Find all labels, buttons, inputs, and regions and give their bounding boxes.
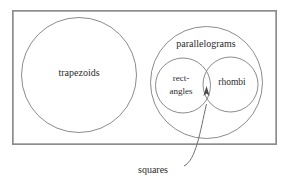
squares-arrowhead-icon — [203, 86, 209, 96]
venn-diagram-svg: trapezoids parallelograms rect- angles r… — [0, 0, 290, 190]
set-label-rhombi: rhombi — [218, 77, 246, 87]
set-label-rectangles-line1: rect- — [173, 73, 189, 83]
callout-label-squares: squares — [138, 164, 168, 175]
set-label-parallelograms: parallelograms — [176, 38, 236, 49]
set-label-trapezoids: trapezoids — [58, 67, 99, 78]
venn-diagram-canvas: trapezoids parallelograms rect- angles r… — [0, 0, 290, 190]
set-label-rectangles-line2: angles — [170, 86, 193, 96]
